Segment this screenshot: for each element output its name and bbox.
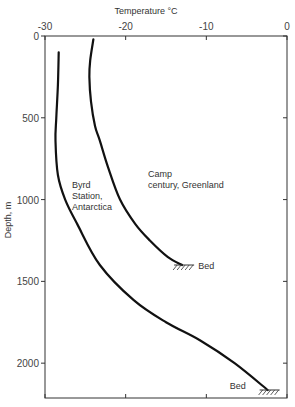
- series-label: century, Greenland: [148, 180, 224, 190]
- bed-label: Bed: [230, 381, 246, 391]
- data-series: BedCampcentury, GreenlandBedByrdStation,…: [55, 39, 279, 395]
- series-label: Station,: [72, 191, 103, 201]
- x-tick-label: -20: [118, 21, 133, 32]
- x-axis-title: Temperature °C: [114, 6, 178, 16]
- series-label: Byrd: [72, 180, 91, 190]
- series-camp-century: BedCampcentury, Greenland: [89, 39, 224, 271]
- series-byrd-station: BedByrdStation,Antarctica: [55, 52, 279, 395]
- bed-label: Bed: [198, 261, 214, 271]
- bed-hatch-icon: [173, 265, 194, 270]
- y-tick-label: 500: [22, 113, 39, 124]
- y-axis-title: Depth, m: [3, 202, 13, 239]
- y-tick-label: 0: [33, 31, 39, 42]
- y-tick-label: 2000: [17, 358, 40, 369]
- series-line: [89, 39, 182, 265]
- bed-hatch-icon: [259, 390, 280, 395]
- series-line: [55, 52, 267, 390]
- y-tick-label: 1500: [17, 276, 40, 287]
- x-tick-label: -10: [199, 21, 214, 32]
- plot-border: [45, 36, 287, 398]
- x-tick-label: 0: [284, 21, 290, 32]
- x-tick-label: -30: [38, 21, 53, 32]
- plot-frame: [45, 36, 287, 398]
- temperature-depth-chart: Temperature °C Depth, m -30-20-100 05001…: [0, 0, 295, 407]
- series-label: Antarctica: [72, 202, 112, 212]
- y-tick-label: 1000: [17, 195, 40, 206]
- series-label: Camp: [148, 169, 172, 179]
